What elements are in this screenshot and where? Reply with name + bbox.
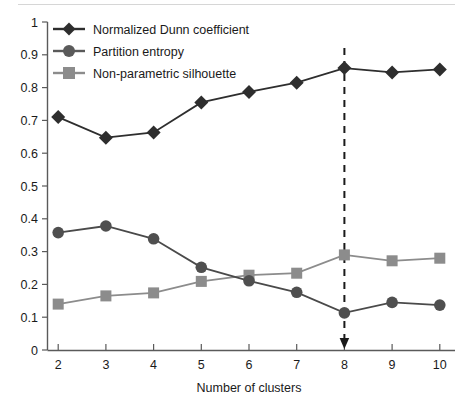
series-plot-area <box>51 61 447 319</box>
data-point-dunn-9 <box>385 65 399 79</box>
y-tick-label-0: 0 <box>31 344 38 358</box>
x-tick-label-9: 9 <box>389 358 396 372</box>
data-point-silhouette-3 <box>100 290 111 301</box>
y-tick-label-0.4: 0.4 <box>21 212 38 226</box>
x-tick-label-7: 7 <box>293 358 300 372</box>
y-tick-label-0.1: 0.1 <box>21 311 38 325</box>
data-point-dunn-7 <box>290 76 304 90</box>
data-point-dunn-2 <box>51 110 65 124</box>
legend-item-partition-entropy: Partition entropy <box>53 45 185 59</box>
data-point-entropy-9 <box>386 297 398 309</box>
legend-label-entropy: Partition entropy <box>93 45 185 59</box>
data-point-silhouette-9 <box>387 255 398 266</box>
y-tick-label-0.8: 0.8 <box>21 81 38 95</box>
y-tick-label-0.2: 0.2 <box>21 278 38 292</box>
x-tick-label-10: 10 <box>433 358 447 372</box>
y-axis-tick-labels: 0 0.1 0.2 0.3 0.4 0.5 0.6 0.7 0.8 0.9 1 <box>21 16 38 358</box>
data-point-entropy-8 <box>339 307 351 319</box>
data-point-entropy-6 <box>243 275 255 287</box>
legend-item-non-parametric-silhouette: Non-parametric silhouette <box>53 67 236 81</box>
legend-label-dunn: Normalized Dunn coefficient <box>93 23 250 37</box>
x-tick-label-4: 4 <box>150 358 157 372</box>
data-point-entropy-7 <box>291 287 303 299</box>
data-point-entropy-10 <box>434 299 446 311</box>
legend-marker-square-icon <box>63 67 75 79</box>
chart-legend: Normalized Dunn coefficient Partition en… <box>53 23 250 81</box>
x-axis-tick-labels: 2 3 4 5 6 7 8 9 10 <box>55 358 447 372</box>
data-point-silhouette-8 <box>339 249 350 260</box>
data-point-dunn-6 <box>242 85 256 99</box>
x-tick-label-2: 2 <box>55 358 62 372</box>
cluster-8-marker-annotation <box>340 48 350 349</box>
data-point-dunn-8 <box>337 61 351 75</box>
data-point-silhouette-10 <box>434 253 445 264</box>
data-point-dunn-4 <box>147 126 161 140</box>
y-tick-label-0.3: 0.3 <box>21 245 38 259</box>
data-point-dunn-3 <box>99 131 113 145</box>
legend-label-silhouette: Non-parametric silhouette <box>93 67 236 81</box>
data-point-entropy-5 <box>196 262 208 274</box>
data-point-dunn-10 <box>433 62 447 76</box>
x-axis-ticks <box>58 344 440 351</box>
y-axis-ticks <box>42 22 48 350</box>
x-tick-label-6: 6 <box>246 358 253 372</box>
x-tick-label-8: 8 <box>341 358 348 372</box>
y-tick-label-0.5: 0.5 <box>21 180 38 194</box>
series-markers-partition-entropy <box>52 220 445 319</box>
data-point-entropy-4 <box>148 233 160 245</box>
y-tick-label-1: 1 <box>31 16 38 30</box>
x-tick-label-3: 3 <box>102 358 109 372</box>
series-line-partition-entropy <box>58 226 440 313</box>
legend-item-normalized-dunn-coefficient: Normalized Dunn coefficient <box>53 23 250 37</box>
legend-marker-circle-icon <box>63 45 75 57</box>
legend-marker-diamond-icon <box>63 23 76 36</box>
y-tick-label-0.9: 0.9 <box>21 48 38 62</box>
line-chart-canvas: 0 0.1 0.2 0.3 0.4 0.5 0.6 0.7 0.8 0.9 1 … <box>0 0 462 405</box>
chart-figure: 0 0.1 0.2 0.3 0.4 0.5 0.6 0.7 0.8 0.9 1 … <box>0 0 462 405</box>
x-axis-title: Number of clusters <box>197 381 302 395</box>
data-point-silhouette-7 <box>291 268 302 279</box>
data-point-entropy-3 <box>100 220 112 232</box>
down-arrowhead-icon <box>340 338 350 349</box>
data-point-entropy-2 <box>52 227 64 239</box>
data-point-dunn-5 <box>194 95 208 109</box>
series-partition-entropy <box>52 220 445 319</box>
x-tick-label-5: 5 <box>198 358 205 372</box>
y-tick-label-0.7: 0.7 <box>21 114 38 128</box>
y-tick-label-0.6: 0.6 <box>21 147 38 161</box>
data-point-silhouette-4 <box>148 287 159 298</box>
data-point-silhouette-5 <box>196 276 207 287</box>
data-point-silhouette-2 <box>53 299 64 310</box>
